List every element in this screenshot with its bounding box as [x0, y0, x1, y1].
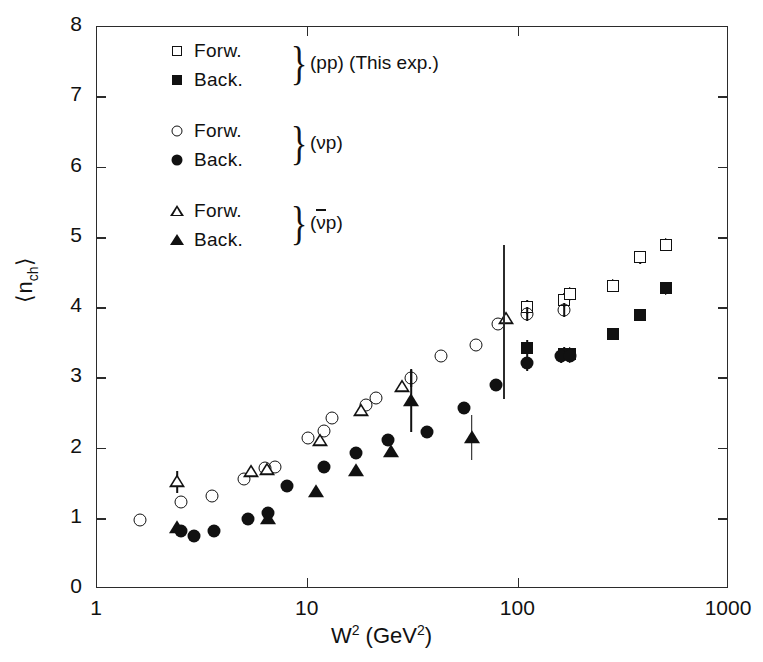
data-point-filled-circle	[350, 447, 363, 460]
legend-marker-filled-circle	[170, 150, 192, 170]
x-axis-label-exp: 2	[352, 622, 360, 638]
x-axis-unit-close: )	[425, 623, 432, 648]
x-axis-label: W2 (GeV2)	[0, 622, 763, 649]
legend-label: Back.	[194, 149, 243, 171]
y-tick-1	[97, 518, 106, 520]
y-axis-label: ⟨nch⟩	[12, 257, 40, 302]
data-point-filled-square	[660, 282, 672, 294]
data-point-open-circle	[369, 391, 382, 404]
chart-figure: ⟨nch⟩ W2 (GeV2) 012345678 1101001000 For…	[0, 0, 763, 662]
legend-label: Back.	[194, 69, 243, 91]
legend-tag: (νp)	[310, 132, 343, 154]
legend-marker-filled-square	[170, 70, 192, 90]
data-point-open-circle	[174, 495, 187, 508]
data-point-open-circle	[325, 412, 338, 425]
data-point-open-circle	[470, 339, 483, 352]
y-tick-label-4: 4	[48, 293, 82, 317]
legend-group-1: Forw.Back.}(νp)	[170, 116, 500, 178]
y-tick-right-1	[718, 518, 727, 520]
data-point-open-circle	[558, 304, 571, 317]
data-point-filled-triangle	[169, 520, 185, 533]
legend-tag: (νp)	[310, 212, 343, 234]
data-point-filled-triangle	[403, 393, 419, 406]
legend-marker-open-circle	[170, 121, 192, 141]
data-point-filled-triangle	[383, 444, 399, 457]
data-point-filled-triangle	[260, 511, 276, 524]
data-point-open-triangle	[394, 379, 410, 392]
x-tick-label-1: 1	[61, 596, 131, 620]
legend: Forw.Back.}(pp) (This exp.)Forw.Back.}(ν…	[170, 36, 500, 276]
data-point-filled-triangle	[348, 463, 364, 476]
y-tick-label-2: 2	[48, 434, 82, 458]
y-tick-label-6: 6	[48, 153, 82, 177]
data-point-open-triangle	[312, 434, 328, 447]
legend-label: Back.	[194, 229, 243, 251]
data-point-open-square	[660, 239, 672, 251]
data-point-filled-square	[607, 328, 619, 340]
data-point-filled-square	[521, 342, 533, 354]
data-point-filled-circle	[563, 349, 576, 362]
legend-tag: (pp) (This exp.)	[310, 52, 439, 74]
legend-label: Forw.	[194, 120, 242, 142]
y-tick-2	[97, 448, 106, 450]
data-point-open-triangle	[498, 311, 514, 324]
y-tick-4	[97, 307, 106, 309]
legend-label: Forw.	[194, 40, 242, 62]
y-axis-label-sub: ch	[25, 266, 41, 281]
x-tick-100	[518, 578, 520, 587]
legend-marker-open-square	[170, 41, 192, 61]
vertical-divider-line	[503, 245, 505, 400]
data-point-filled-circle	[521, 357, 534, 370]
x-axis-unit-open: (GeV	[366, 623, 417, 648]
y-tick-right-7	[718, 96, 727, 98]
legend-group-2: Forw.Back.}(νp)	[170, 196, 500, 258]
legend-brace: }	[291, 33, 308, 95]
x-axis-unit-exp: 2	[417, 622, 425, 638]
data-point-open-triangle	[259, 462, 275, 475]
y-tick-right-3	[718, 377, 727, 379]
y-tick-label-0: 0	[48, 574, 82, 598]
legend-brace: }	[291, 193, 308, 255]
x-tick-label-10: 10	[272, 596, 342, 620]
y-tick-right-5	[718, 237, 727, 239]
y-axis-label-prefix: ⟨n	[12, 281, 37, 302]
legend-brace: }	[291, 113, 308, 175]
data-point-open-circle	[435, 349, 448, 362]
x-tick-top-100	[518, 27, 520, 36]
x-tick-label-1000: 1000	[693, 596, 763, 620]
data-point-filled-circle	[457, 402, 470, 415]
data-point-open-triangle	[243, 464, 259, 477]
data-point-open-circle	[134, 514, 147, 527]
y-tick-7	[97, 96, 106, 98]
y-tick-right-4	[718, 307, 727, 309]
y-tick-6	[97, 167, 106, 169]
data-point-filled-circle	[208, 524, 221, 537]
data-point-open-square	[564, 288, 576, 300]
legend-group-0: Forw.Back.}(pp) (This exp.)	[170, 36, 500, 98]
data-point-filled-circle	[281, 479, 294, 492]
y-tick-5	[97, 237, 106, 239]
data-point-filled-square	[634, 309, 646, 321]
x-axis-label-var: W	[331, 623, 352, 648]
legend-marker-open-triangle	[170, 201, 192, 221]
x-tick-10	[307, 578, 309, 587]
data-point-filled-triangle	[308, 484, 324, 497]
data-point-filled-circle	[421, 426, 434, 439]
y-tick-label-8: 8	[48, 12, 82, 36]
y-tick-right-6	[718, 167, 727, 169]
data-point-open-triangle	[169, 474, 185, 487]
x-tick-label-100: 100	[482, 596, 552, 620]
data-point-open-square	[634, 251, 646, 263]
data-point-filled-circle	[489, 379, 502, 392]
data-point-open-circle	[521, 307, 534, 320]
y-tick-label-5: 5	[48, 223, 82, 247]
data-point-filled-circle	[241, 513, 254, 526]
y-tick-label-1: 1	[48, 504, 82, 528]
data-point-open-square	[607, 280, 619, 292]
data-point-open-triangle	[353, 403, 369, 416]
data-point-open-circle	[205, 489, 218, 502]
y-tick-3	[97, 377, 106, 379]
y-tick-label-3: 3	[48, 363, 82, 387]
data-point-filled-circle	[188, 529, 201, 542]
y-axis-label-suffix: ⟩	[12, 257, 37, 266]
